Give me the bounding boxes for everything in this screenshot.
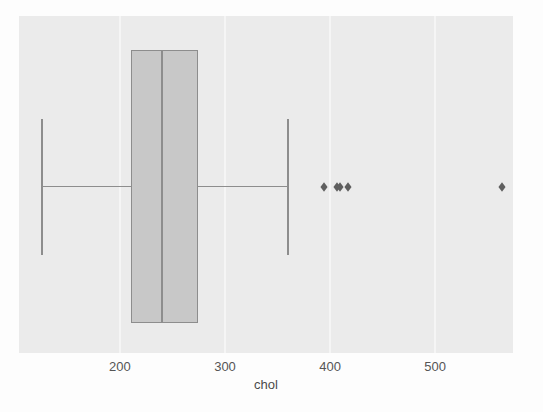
gridline [224,16,226,353]
outlier-point [344,182,351,192]
outlier-point [320,182,327,192]
whisker-cap-upper [287,119,289,255]
gridline [329,16,331,353]
whisker-line-upper [198,186,288,188]
x-tick-label: 400 [319,359,341,374]
boxplot-figure: 200 300 400 500 chol [0,0,543,412]
x-tick-label: 300 [214,359,236,374]
gridline [119,16,121,353]
x-axis-title: chol [254,377,278,392]
x-tick-label: 200 [109,359,131,374]
whisker-line-lower [42,186,131,188]
outlier-point [499,182,506,192]
box-rect [131,50,197,323]
median-line [161,50,163,323]
x-tick-label: 500 [424,359,446,374]
whisker-cap-lower [41,119,43,255]
gridline [434,16,436,353]
plot-area [19,16,513,353]
